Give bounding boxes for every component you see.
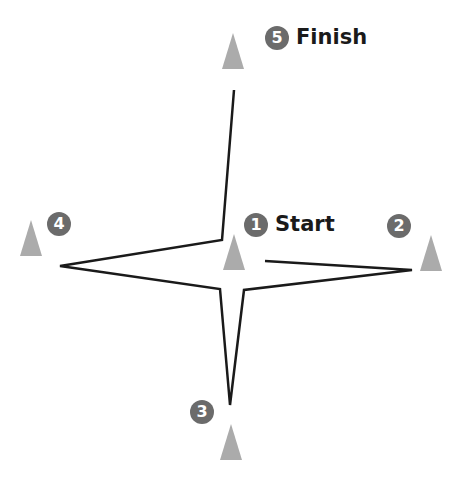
cone-3-icon (220, 424, 242, 460)
badge-5: 5 (265, 26, 289, 50)
cone-2-icon (420, 235, 442, 271)
badge-2: 2 (387, 214, 411, 238)
cone-drill-diagram: 5 Finish 1 Start 2 4 3 (0, 0, 464, 488)
cone-4-icon (20, 220, 42, 256)
badge-3: 3 (190, 400, 214, 424)
cone-5-icon (222, 33, 244, 69)
start-label: Start (275, 212, 335, 236)
badge-4: 4 (47, 212, 71, 236)
cone-1-icon (223, 234, 245, 270)
badge-1: 1 (244, 213, 268, 237)
finish-label: Finish (296, 25, 367, 49)
